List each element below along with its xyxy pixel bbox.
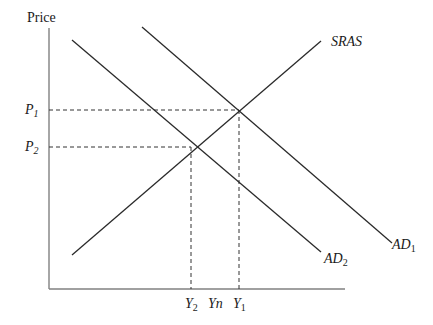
- as-ad-diagram: Price P1 P2 Y2 Yn Y1 SRAS AD1 AD2: [0, 0, 433, 325]
- ad1-curve: [142, 27, 392, 243]
- y2-label: Y2: [185, 296, 198, 313]
- sras-label: SRAS: [331, 34, 362, 49]
- p2-label: P2: [24, 139, 39, 156]
- ad2-label: AD2: [323, 251, 348, 268]
- ad1-label: AD1: [391, 237, 416, 254]
- y-axis-label: Price: [27, 10, 56, 25]
- sras-curve: [72, 41, 321, 255]
- yn-label: Yn: [208, 296, 223, 311]
- y1-label: Y1: [233, 296, 246, 313]
- ad2-curve: [72, 40, 321, 252]
- p1-label: P1: [24, 102, 39, 119]
